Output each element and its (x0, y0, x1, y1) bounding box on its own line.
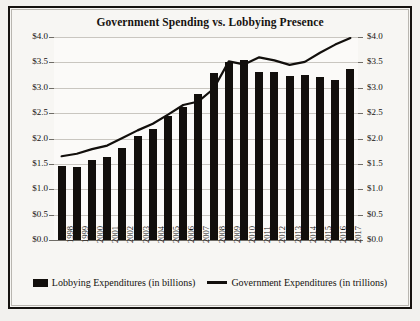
x-tick-2016: 2016 (339, 226, 348, 243)
y-tick-mark-right (358, 189, 363, 190)
x-tick-2008: 2008 (218, 226, 227, 243)
y-tick-right-$4.0: $4.0 (367, 32, 407, 41)
y-tick-mark-right (358, 62, 363, 63)
x-tick-2013: 2013 (294, 226, 303, 243)
x-tick-2003: 2003 (142, 226, 151, 243)
y-tick-right-$1.0: $1.0 (367, 184, 407, 193)
y-tick-mark-right (358, 215, 363, 216)
y-tick-mark-left (49, 37, 54, 38)
x-tick-2007: 2007 (202, 226, 211, 243)
y-tick-mark-left (49, 189, 54, 190)
x-tick-2000: 2000 (96, 226, 105, 243)
y-tick-mark-left (49, 139, 54, 140)
x-tick-1998: 1998 (66, 226, 75, 243)
legend-label-lobbying: Lobbying Expenditures (in billions) (52, 277, 196, 288)
y-tick-mark-left (49, 88, 54, 89)
y-tick-left-$1.5: $1.5 (8, 159, 48, 168)
x-tick-2002: 2002 (126, 226, 135, 243)
line-series (54, 37, 358, 240)
y-tick-mark-right (358, 88, 363, 89)
y-tick-right-$2.0: $2.0 (367, 134, 407, 143)
x-tick-2005: 2005 (172, 226, 181, 243)
legend-label-government: Government Expenditures (in trillions) (231, 277, 387, 288)
y-tick-mark-left (49, 240, 54, 241)
chart-legend: Lobbying Expenditures (in billions) Gove… (0, 277, 420, 288)
y-tick-left-$2.0: $2.0 (8, 134, 48, 143)
x-tick-2017: 2017 (354, 226, 363, 243)
y-tick-left-$0.5: $0.5 (8, 210, 48, 219)
y-tick-mark-right (358, 37, 363, 38)
x-tick-2009: 2009 (233, 226, 242, 243)
y-tick-right-$2.5: $2.5 (367, 108, 407, 117)
y-tick-left-$4.0: $4.0 (8, 32, 48, 41)
x-tick-2010: 2010 (248, 226, 257, 243)
chart-title: Government Spending vs. Lobbying Presenc… (0, 16, 420, 28)
y-tick-right-$0.0: $0.0 (367, 235, 407, 244)
legend-item-lobbying: Lobbying Expenditures (in billions) (33, 277, 196, 288)
bar-swatch-icon (33, 279, 48, 287)
legend-item-government: Government Expenditures (in trillions) (207, 277, 387, 288)
x-tick-2001: 2001 (111, 226, 120, 243)
y-tick-left-$3.0: $3.0 (8, 83, 48, 92)
y-tick-mark-left (49, 215, 54, 216)
y-tick-mark-left (49, 62, 54, 63)
x-tick-2012: 2012 (278, 226, 287, 243)
x-tick-2006: 2006 (187, 226, 196, 243)
y-tick-mark-left (49, 164, 54, 165)
x-tick-2015: 2015 (324, 226, 333, 243)
y-tick-left-$2.5: $2.5 (8, 108, 48, 117)
y-tick-right-$1.5: $1.5 (367, 159, 407, 168)
y-tick-right-$3.0: $3.0 (367, 83, 407, 92)
y-tick-mark-right (358, 164, 363, 165)
y-tick-left-$1.0: $1.0 (8, 184, 48, 193)
y-tick-left-$3.5: $3.5 (8, 57, 48, 66)
y-tick-mark-left (49, 113, 54, 114)
plot-area (54, 37, 358, 240)
y-tick-left-$0.0: $0.0 (8, 235, 48, 244)
y-tick-mark-right (358, 139, 363, 140)
y-tick-mark-right (358, 113, 363, 114)
line-swatch-icon (207, 281, 227, 284)
x-tick-2014: 2014 (309, 226, 318, 243)
y-tick-right-$3.5: $3.5 (367, 57, 407, 66)
x-tick-1999: 1999 (81, 226, 90, 243)
chart-screenshot: Government Spending vs. Lobbying Presenc… (0, 0, 420, 321)
x-tick-2004: 2004 (157, 226, 166, 243)
y-tick-right-$0.5: $0.5 (367, 210, 407, 219)
x-tick-2011: 2011 (263, 226, 272, 243)
